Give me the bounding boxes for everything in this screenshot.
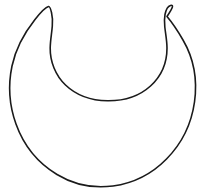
crescent-moon-figure: Line-art outline of a crescent moon open…: [0, 0, 217, 194]
figure-canvas: Line-art outline of a crescent moon open…: [0, 0, 217, 194]
